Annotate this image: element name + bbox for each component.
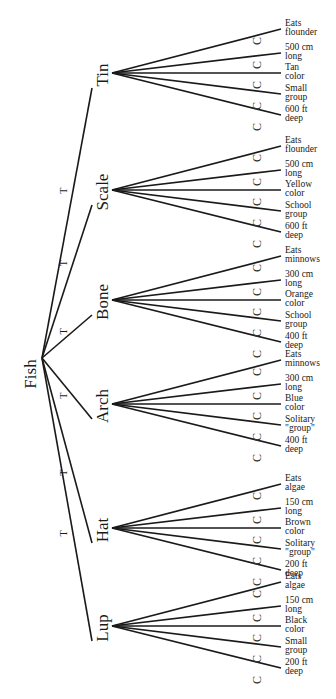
leaf-marker-c: C	[250, 516, 264, 524]
leaf-label-line: algae	[285, 581, 305, 590]
leaf-label-line: color	[285, 527, 311, 536]
leaf-marker-c: C	[250, 412, 264, 420]
leaf-label: Yellowcolor	[285, 180, 312, 198]
leaf-marker-c: C	[250, 61, 264, 69]
leaf-marker-c: C	[250, 350, 264, 358]
leaf-label-line: "group"	[285, 424, 315, 433]
leaf-marker-c: C	[250, 81, 264, 89]
group-label-hat: Hat	[93, 517, 112, 542]
leaf-marker-c: C	[250, 240, 264, 248]
group-label-scale: Scale	[93, 174, 112, 211]
leaf-label-line: minnows	[285, 255, 320, 264]
leaf-label: 150 cmlong	[285, 596, 313, 614]
leaf-label: 150 cmlong	[285, 498, 313, 516]
leaf-marker-c: C	[250, 219, 264, 227]
leaf-label-line: color	[285, 72, 305, 81]
leaf-label-line: group	[285, 646, 307, 655]
branch-edge-tin	[42, 88, 92, 358]
leaf-label-line: deep	[285, 114, 307, 123]
leaf-marker-c: C	[250, 454, 264, 462]
leaf-label-line: deep	[285, 667, 307, 676]
leaf-label-line: long	[285, 507, 313, 516]
leaf-label-line: long	[285, 605, 313, 614]
branch-marker-t: T	[58, 328, 69, 334]
leaf-label: Eatsminnows	[285, 350, 320, 368]
leaf-marker-c: C	[250, 198, 264, 206]
leaf-label-line: group	[285, 210, 311, 219]
leaf-label: Smallgroup	[285, 84, 307, 102]
leaf-marker-c: C	[250, 154, 264, 162]
leaf-label-line: flounder	[285, 28, 317, 37]
group-label-arch: Arch	[93, 389, 112, 423]
leaf-label: Eatsalgae	[285, 474, 305, 492]
leaf-label: Eatsminnows	[285, 246, 320, 264]
leaf-label: Solitary"group"	[285, 539, 315, 557]
branch-marker-t: T	[58, 260, 69, 266]
leaf-label-line: "group"	[285, 548, 315, 557]
leaf-marker-c: C	[250, 634, 264, 642]
leaf-label: Schoolgroup	[285, 311, 311, 329]
leaf-marker-c: C	[250, 37, 264, 45]
leaf-marker-c: C	[250, 590, 264, 598]
leaf-label: Eatsalgae	[285, 572, 305, 590]
branch-marker-t: T	[58, 530, 69, 536]
leaf-label-line: deep	[285, 231, 307, 240]
leaf-label-line: flounder	[285, 145, 317, 154]
group-label-bone: Bone	[93, 284, 112, 320]
branch-marker-t: T	[58, 393, 69, 399]
branch-marker-t: T	[58, 188, 69, 194]
leaf-label-line: long	[285, 52, 313, 61]
leaf-marker-c: C	[250, 655, 264, 663]
leaf-label: 600 ftdeep	[285, 105, 307, 123]
leaf-marker-c: C	[250, 329, 264, 337]
leaf-label: Solitary"group"	[285, 415, 315, 433]
leaf-label-line: long	[285, 383, 313, 392]
leaf-label-line: color	[285, 299, 313, 308]
leaf-label-line: group	[285, 320, 311, 329]
leaf-marker-c: C	[250, 536, 264, 544]
leaf-label: Smallgroup	[285, 637, 307, 655]
leaf-marker-c: C	[250, 433, 264, 441]
leaf-label: 400 ftdeep	[285, 436, 307, 454]
leaf-label: Bluecolor	[285, 394, 305, 412]
leaf-marker-c: C	[250, 178, 264, 186]
leaf-label: Tancolor	[285, 63, 305, 81]
leaf-label-line: color	[285, 403, 305, 412]
leaf-marker-c: C	[250, 492, 264, 500]
leaf-label-line: long	[285, 169, 313, 178]
leaf-label-line: minnows	[285, 359, 320, 368]
root-label: Fish	[21, 359, 40, 389]
leaf-label: Eatsflounder	[285, 136, 317, 154]
leaf-label-line: long	[285, 279, 313, 288]
leaf-label: 600 ftdeep	[285, 222, 307, 240]
leaf-label: Browncolor	[285, 518, 311, 536]
leaf-label-line: group	[285, 93, 307, 102]
leaf-marker-c: C	[250, 308, 264, 316]
group-label-lup: Lup	[93, 614, 112, 641]
leaf-marker-c: C	[250, 557, 264, 565]
leaf-marker-c: C	[250, 264, 264, 272]
branch-marker-t: T	[58, 470, 69, 476]
branch-edge-lup	[42, 358, 92, 641]
leaf-label: 300 cmlong	[285, 270, 313, 288]
leaf-marker-c: C	[250, 676, 264, 684]
leaf-marker-c: C	[250, 102, 264, 110]
leaf-label: Orangecolor	[285, 290, 313, 308]
branch-edge-hat	[42, 358, 92, 543]
leaf-label: Eatsflounder	[285, 19, 317, 37]
leaf-label-line: color	[285, 625, 307, 634]
leaf-label: 300 cmlong	[285, 374, 313, 392]
leaf-label: 500 cmlong	[285, 160, 313, 178]
leaf-label-line: algae	[285, 483, 305, 492]
leaf-label: 200 ftdeep	[285, 658, 307, 676]
leaf-label: 500 cmlong	[285, 43, 313, 61]
group-label-tin: Tin	[93, 63, 112, 87]
leaf-label: Blackcolor	[285, 616, 307, 634]
leaf-marker-c: C	[250, 578, 264, 586]
leaf-marker-c: C	[250, 392, 264, 400]
leaf-marker-c: C	[250, 614, 264, 622]
leaf-marker-c: C	[250, 123, 264, 131]
leaf-marker-c: C	[250, 368, 264, 376]
leaf-label-line: color	[285, 189, 312, 198]
leaf-label-line: deep	[285, 445, 307, 454]
